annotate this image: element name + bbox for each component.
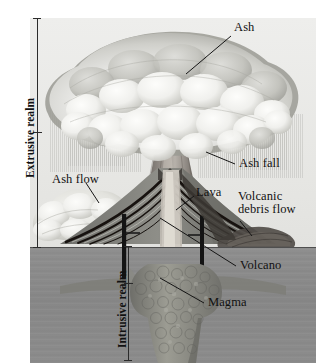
- callout-label-volcanic-debris-flow: Volcanic debris flow: [238, 190, 316, 216]
- callout-label-ash-fall: Ash fall: [239, 157, 280, 170]
- callout-label-volcano: Volcano: [240, 259, 281, 272]
- callout-label-lava: Lava: [196, 186, 221, 199]
- callout-label-ash-flow: Ash flow: [52, 173, 99, 186]
- intrusive-realm-label: Intrusive realm: [116, 270, 128, 348]
- intrusive-realm-bracket-top-tick: [124, 246, 132, 247]
- intrusive-realm-bracket-bottom-tick: [124, 360, 132, 361]
- callout-label-volcanic-debris-flow-line1: Volcanic: [238, 189, 282, 203]
- extrusive-realm-label: Extrusive realm: [24, 98, 36, 178]
- intrusive-realm-bracket: [128, 246, 129, 361]
- extrusive-realm-bracket: [37, 18, 38, 248]
- extrusive-realm-bracket-top-tick: [33, 18, 41, 19]
- volcano-diagram-figure: Extrusive realm Intrusive realm Ash Ash …: [0, 0, 316, 363]
- callout-label-magma: Magma: [208, 296, 247, 309]
- extrusive-realm-bracket-bottom-tick: [33, 247, 41, 248]
- callout-label-volcanic-debris-flow-line2: debris flow: [238, 202, 296, 216]
- callout-label-ash: Ash: [234, 21, 254, 34]
